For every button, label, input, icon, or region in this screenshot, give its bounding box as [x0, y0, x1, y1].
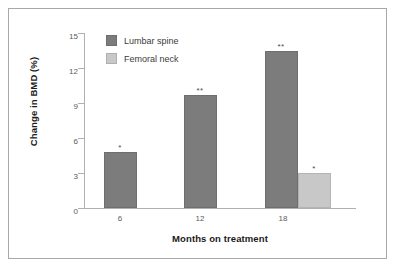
y-tick-0: 0 [52, 208, 78, 209]
bar-18-lumbar-spine[interactable] [265, 51, 298, 208]
y-axis-title: Change in BMD (%) [28, 42, 39, 162]
x-tick-label-18: 18 [263, 214, 303, 223]
significance-marker-6-lumbar: * [105, 144, 135, 152]
y-tick-label-0: 0 [56, 208, 78, 216]
legend-item-lumbar-spine[interactable]: Lumbar spine [106, 35, 179, 46]
x-axis-line [84, 208, 356, 209]
y-tick-label-12: 12 [56, 68, 78, 76]
significance-marker-12-lumbar: ** [185, 87, 215, 95]
y-tick-12: 12 [52, 68, 78, 69]
significance-marker-18-femoral: * [299, 165, 329, 173]
bar-12-lumbar-spine[interactable] [184, 95, 217, 208]
y-tick-9: 9 [52, 103, 78, 104]
x-tick-label-12: 12 [180, 214, 220, 223]
y-tick-3: 3 [52, 173, 78, 174]
x-axis-title: Months on treatment [84, 233, 356, 244]
y-tick-label-6: 6 [56, 138, 78, 146]
y-tick-label-15: 15 [56, 33, 78, 41]
legend-label-femoral-neck: Femoral neck [124, 54, 179, 64]
y-tick-label-9: 9 [56, 103, 78, 111]
figure-container: 15 12 9 6 3 0 Change in BMD (%) Months o… [0, 0, 395, 267]
x-tick-label-6: 6 [100, 214, 140, 223]
significance-marker-18-lumbar: ** [266, 43, 296, 51]
bar-18-femoral-neck[interactable] [298, 173, 331, 208]
legend-swatch-femoral-neck [106, 53, 117, 64]
y-tick-15: 15 [52, 33, 78, 34]
y-tick-6: 6 [52, 138, 78, 139]
chart-legend: Lumbar spine Femoral neck [106, 35, 179, 71]
legend-label-lumbar-spine: Lumbar spine [124, 36, 179, 46]
y-tick-label-3: 3 [56, 173, 78, 181]
legend-swatch-lumbar-spine [106, 35, 117, 46]
legend-item-femoral-neck[interactable]: Femoral neck [106, 53, 179, 64]
bar-6-lumbar-spine[interactable] [104, 152, 137, 208]
